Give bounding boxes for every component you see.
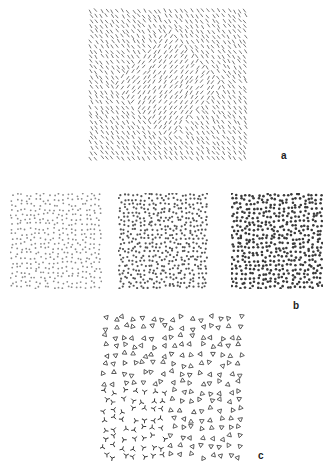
panel-b-left-dot-texture	[10, 193, 102, 289]
dot-texture-image	[118, 193, 208, 289]
label-a: a	[281, 150, 287, 161]
panel-b-middle-dot-texture	[118, 193, 208, 289]
triangle-arrow-texture-image	[100, 313, 245, 461]
dot-texture-image	[231, 193, 323, 289]
label-b: b	[293, 300, 299, 311]
panel-c-triangle-texture	[100, 313, 245, 461]
dot-texture-image	[10, 193, 102, 289]
panel-b-right-dot-texture	[231, 193, 323, 289]
label-c: c	[258, 450, 264, 461]
panel-a-texture-oriented-lines	[88, 8, 248, 161]
line-texture-image	[88, 8, 248, 161]
